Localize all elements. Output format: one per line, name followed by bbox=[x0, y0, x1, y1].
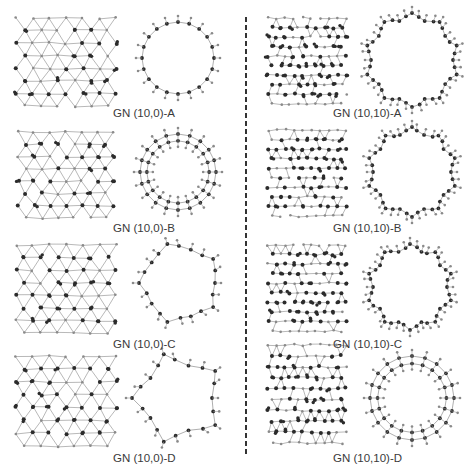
carbon-atom bbox=[333, 45, 336, 48]
bond bbox=[32, 94, 41, 106]
bond bbox=[50, 168, 58, 181]
hydrogen-atom bbox=[388, 380, 391, 383]
carbon-atom bbox=[266, 365, 269, 368]
carbon-atom bbox=[111, 154, 114, 157]
carbon-atom bbox=[336, 262, 340, 266]
bond bbox=[33, 68, 40, 81]
hydrogen-atom bbox=[177, 99, 180, 102]
carbon-atom bbox=[298, 252, 301, 255]
hydrogen-atom bbox=[133, 171, 136, 174]
bond bbox=[58, 206, 66, 218]
hydrogen-atom bbox=[271, 329, 274, 332]
hydrogen-atom bbox=[397, 213, 400, 216]
carbon-atom bbox=[284, 147, 288, 151]
hydrogen-atom bbox=[434, 15, 437, 18]
carbon-atom bbox=[305, 62, 308, 65]
bond bbox=[290, 130, 295, 139]
carbon-atom bbox=[299, 85, 302, 88]
bond bbox=[67, 407, 74, 420]
hydrogen-atom bbox=[293, 186, 296, 189]
hydrogen-atom bbox=[328, 344, 331, 347]
hydrogen-atom bbox=[375, 24, 378, 27]
hydrogen-atom bbox=[461, 75, 464, 78]
hydrogen-atom bbox=[364, 293, 367, 296]
bond bbox=[16, 56, 26, 69]
bond bbox=[75, 282, 91, 283]
carbon-atom bbox=[275, 407, 279, 411]
bond bbox=[58, 271, 66, 282]
hydrogen-atom bbox=[323, 377, 326, 380]
end-view-10-0-A bbox=[135, 15, 222, 102]
bond bbox=[50, 270, 59, 282]
hydrogen-atom bbox=[176, 440, 179, 443]
bond bbox=[100, 408, 107, 421]
carbon-atom bbox=[87, 257, 90, 260]
bond bbox=[25, 68, 33, 81]
carbon-atom bbox=[290, 146, 293, 149]
bond bbox=[18, 157, 27, 169]
bond bbox=[107, 295, 115, 309]
hydrogen-atom bbox=[217, 309, 220, 312]
hydrogen-atom bbox=[301, 129, 304, 132]
carbon-atom bbox=[72, 366, 76, 370]
bond bbox=[58, 131, 65, 144]
carbon-atom bbox=[335, 185, 339, 189]
carbon-atom bbox=[343, 263, 346, 266]
carbon-atom bbox=[73, 283, 76, 286]
hydrogen-atom bbox=[114, 293, 117, 296]
hydrogen-atom bbox=[373, 86, 376, 89]
hydrogen-atom bbox=[341, 443, 344, 446]
hydrogen-atom bbox=[344, 245, 347, 248]
bond bbox=[42, 193, 58, 195]
bond bbox=[32, 42, 49, 43]
hydrogen-atom bbox=[336, 55, 339, 58]
panel-10-10-B bbox=[265, 120, 461, 225]
carbon-atom bbox=[269, 63, 273, 67]
bond bbox=[90, 369, 100, 382]
bond bbox=[32, 81, 41, 94]
panel-label-10-10-d: GN (10,10)-D bbox=[333, 452, 402, 464]
carbon-atom bbox=[335, 166, 339, 170]
ring-bond bbox=[399, 438, 412, 440]
hydrogen-atom bbox=[80, 295, 83, 298]
carbon-atom bbox=[346, 35, 349, 38]
bond bbox=[17, 257, 24, 269]
hydrogen-atom bbox=[90, 216, 93, 219]
carbon-atom bbox=[302, 299, 305, 302]
bond bbox=[42, 156, 50, 169]
hydrogen-atom bbox=[31, 355, 34, 358]
bond bbox=[84, 270, 100, 271]
bond bbox=[65, 80, 75, 94]
hydrogen-atom bbox=[318, 129, 321, 132]
ring-bond bbox=[412, 356, 425, 358]
hydrogen-atom bbox=[459, 155, 462, 158]
hydrogen-atom bbox=[425, 14, 428, 17]
hydrogen-atom bbox=[323, 442, 326, 445]
bond bbox=[49, 80, 58, 94]
hydrogen-atom bbox=[328, 281, 331, 284]
hydrogen-atom bbox=[288, 441, 291, 444]
bond bbox=[75, 56, 84, 68]
carbon-atom bbox=[96, 204, 100, 208]
bond bbox=[99, 357, 108, 369]
end-view-10-0-C bbox=[132, 237, 223, 329]
bond bbox=[57, 420, 66, 434]
ring-bond bbox=[378, 418, 384, 422]
hydrogen-atom bbox=[416, 240, 419, 243]
hydrogen-atom bbox=[57, 217, 60, 220]
bond bbox=[33, 56, 41, 68]
ring-bond bbox=[167, 318, 180, 322]
bond bbox=[74, 368, 90, 369]
carbon-atom bbox=[306, 136, 309, 139]
carbon-atom bbox=[373, 151, 377, 155]
hydrogen-atom bbox=[372, 425, 375, 428]
hydrogen-atom bbox=[345, 431, 348, 434]
carbon-atom bbox=[292, 364, 295, 367]
hydrogen-atom bbox=[203, 135, 206, 138]
hydrogen-atom bbox=[384, 405, 387, 408]
bond bbox=[298, 356, 307, 357]
carbon-atom bbox=[272, 44, 275, 47]
hydrogen-atom bbox=[310, 205, 313, 208]
hydrogen-atom bbox=[284, 55, 287, 58]
carbon-atom bbox=[336, 73, 340, 77]
